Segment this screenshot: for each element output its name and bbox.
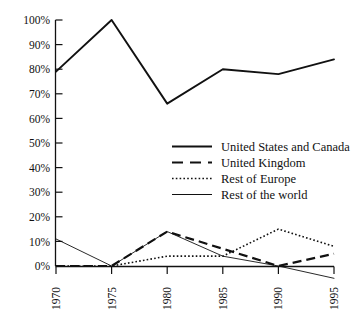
legend-label-3: Rest of the world	[221, 188, 308, 202]
y-label-20: 20%	[29, 211, 51, 223]
y-label-40: 40%	[29, 162, 51, 174]
y-label-90: 90%	[29, 39, 51, 51]
chart-background	[0, 0, 364, 318]
chart-canvas: 100% 90% 80% 70% 60% 50% 40% 30% 20% 10%…	[0, 0, 364, 318]
y-label-30: 30%	[29, 186, 51, 198]
y-label-80: 80%	[29, 63, 51, 75]
line-chart: 100% 90% 80% 70% 60% 50% 40% 30% 20% 10%…	[0, 0, 364, 318]
y-label-100: 100%	[23, 14, 50, 26]
y-label-60: 60%	[29, 113, 51, 125]
x-label-1975: 1975	[106, 287, 118, 310]
legend-label-0: United States and Canada	[221, 140, 350, 154]
y-label-50: 50%	[29, 137, 51, 149]
legend-label-2: Rest of Europe	[221, 172, 296, 186]
y-label-10: 10%	[29, 236, 51, 248]
y-label-70: 70%	[29, 88, 51, 100]
x-label-1985: 1985	[217, 287, 229, 310]
legend-label-1: United Kingdom	[221, 156, 306, 170]
x-label-1995: 1995	[328, 287, 340, 310]
x-label-1980: 1980	[161, 287, 173, 310]
x-label-1970: 1970	[50, 287, 62, 310]
x-label-1990: 1990	[272, 287, 284, 310]
y-label-0: 0%	[35, 260, 51, 272]
